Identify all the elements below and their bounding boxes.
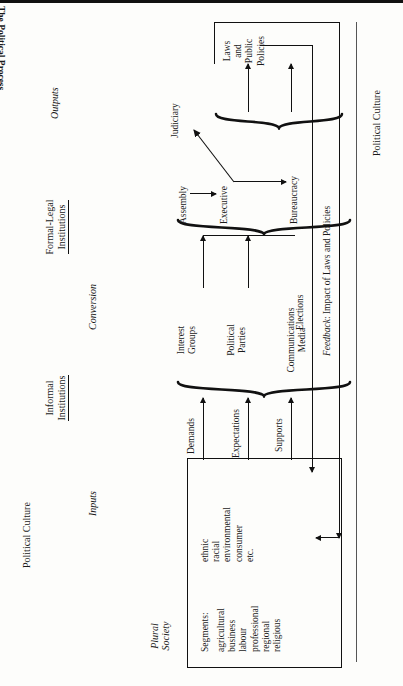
segment-item: racial <box>211 507 222 562</box>
formal-institution-executive: Executive <box>219 186 229 224</box>
segments-column-b: ethnic racial environmental consumer etc… <box>200 507 256 562</box>
outputs-line-2: and <box>233 16 244 86</box>
formal-institution-judiciary: Judiciary <box>170 103 180 138</box>
elections-label: Elections <box>295 295 305 330</box>
arrow-to-outputs-2 <box>291 64 292 112</box>
environment-label-bottom: Political Culture <box>372 90 383 156</box>
brace-informal-institutions <box>176 380 352 398</box>
informal-interest-l1: Interest <box>176 294 187 386</box>
segment-item: etc. <box>245 507 256 562</box>
conversion-feed-riser <box>203 235 295 236</box>
arrow-elections-into-society <box>312 402 313 472</box>
arrow-informal-to-formal-1 <box>203 236 204 288</box>
segment-item: business <box>227 606 238 652</box>
arrow-executive-to-bureaucracy <box>234 181 286 182</box>
arrow-assembly-to-executive <box>190 193 216 194</box>
brace-outputs <box>214 112 344 130</box>
formal-institution-bureaucracy: Bureaucracy <box>289 176 299 224</box>
arrow-supports <box>291 398 292 460</box>
feedback-label-em: Feedback <box>322 319 332 356</box>
heading-formal-legal-institutions: Formal-Legal Institutions <box>44 172 69 282</box>
segment-item: labour <box>238 606 249 652</box>
arrow-demands <box>203 398 204 460</box>
heading-informal-institutions: Informal Institutions <box>44 350 69 446</box>
heading-formal-line2: Institutions <box>56 200 68 255</box>
heading-formal-line1: Formal-Legal <box>44 200 56 255</box>
stage-label-inputs: Inputs <box>88 491 99 516</box>
segment-item: environmental <box>222 507 233 562</box>
stage-label-conversion: Conversion <box>88 284 99 330</box>
stage-label-plural-society-l1: Plural Society <box>149 622 171 651</box>
segments-heading: Segments: <box>200 612 210 652</box>
segment-item: consumer <box>234 507 245 562</box>
informal-parties-l2: Parties <box>237 294 248 386</box>
informal-institution-political-parties: Political Parties <box>226 294 248 386</box>
arrow-informal-to-formal-2 <box>248 236 249 288</box>
informal-parties-l1: Political <box>226 294 237 386</box>
segment-item: agricultural <box>216 606 227 652</box>
segment-item: ethnic <box>200 507 211 562</box>
arrow-feedback-into-society <box>339 458 340 538</box>
segment-item: religious <box>272 606 283 652</box>
segments-column-a: agricultural business labour professiona… <box>216 606 283 652</box>
informal-interest-l2: Groups <box>187 294 198 386</box>
outputs-line-3: Public <box>244 16 255 86</box>
arrow-expectations <box>248 398 249 460</box>
environment-label-top: Political Culture <box>22 502 33 568</box>
outputs-line-4: Policies <box>256 16 267 86</box>
input-label-supports: Supports <box>274 418 284 452</box>
feedback-line-from-outputs <box>214 22 215 64</box>
feedback-label-rest: : Impact of Laws and Policies <box>322 206 332 319</box>
feedback-label: Feedback: Impact of Laws and Policies <box>322 206 332 356</box>
input-label-expectations: Expectations <box>231 409 241 458</box>
outputs-laws-and-public-policies: Laws and Public Policies <box>222 16 267 86</box>
heading-informal-line1: Informal <box>44 376 56 421</box>
heading-informal-line2: Institutions <box>56 376 68 421</box>
political-process-diagram: Political Culture Political Culture Plur… <box>0 0 403 686</box>
stage-label-plural-society: Plural Society <box>150 608 172 664</box>
segment-item: professional <box>250 606 261 652</box>
formal-institution-assembly: Assembly <box>178 186 188 224</box>
outputs-line-1: Laws <box>222 16 233 86</box>
stage-label-outputs: Outputs <box>50 87 61 119</box>
segment-item: regional <box>261 606 272 652</box>
political-culture-rail-bottom <box>356 22 357 662</box>
informal-institution-interest-groups: Interest Groups <box>176 294 198 386</box>
elections-line-down <box>260 45 312 46</box>
feedback-line-down-from-outputs <box>214 22 339 23</box>
input-label-demands: Demands <box>186 418 196 454</box>
